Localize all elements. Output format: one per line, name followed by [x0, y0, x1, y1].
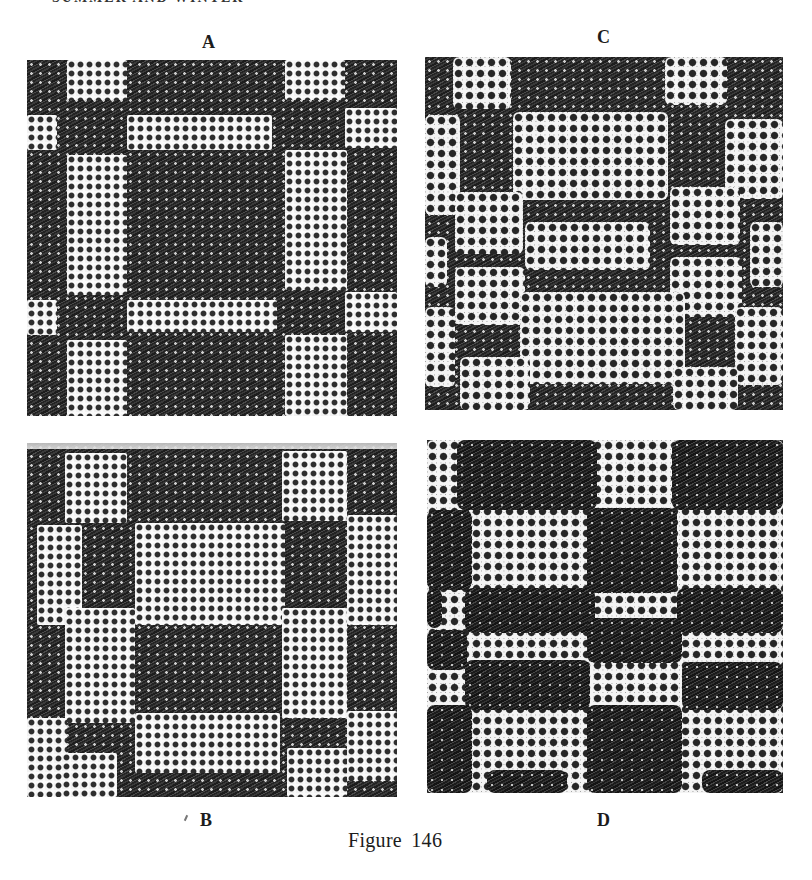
- pattern-block-light: [287, 748, 347, 797]
- pattern-block-light: [27, 300, 57, 335]
- pattern-block-lighter: [460, 357, 530, 410]
- pattern-block-lighter: [670, 187, 740, 245]
- textile-swatch-c: [425, 57, 783, 410]
- pattern-block-dark: [587, 705, 682, 793]
- pattern-block-lighter: [425, 307, 455, 387]
- pattern-block-light: [347, 711, 397, 781]
- pattern-block-dark: [487, 770, 567, 793]
- pattern-block-lighter: [455, 192, 523, 254]
- pattern-block-light: [67, 155, 127, 295]
- pattern-block-dark: [427, 705, 472, 793]
- pattern-block-dark: [702, 770, 783, 793]
- pattern-block-light: [27, 718, 67, 797]
- pattern-block-dark: [427, 588, 442, 628]
- textile-swatch-a: [27, 60, 397, 416]
- pattern-block-lighter: [425, 237, 447, 287]
- pattern-block-light: [67, 60, 127, 100]
- pattern-block-dark: [457, 440, 597, 510]
- pattern-block-light: [27, 115, 57, 150]
- pattern-block-dark: [587, 508, 677, 593]
- pattern-block-light: [345, 292, 397, 332]
- pattern-block-dark: [682, 662, 783, 710]
- pattern-block-light: [285, 60, 345, 100]
- pattern-block-light: [345, 108, 397, 148]
- pattern-block-light: [65, 453, 127, 523]
- panel-label-d: D: [597, 811, 610, 829]
- pattern-block-dark: [677, 588, 783, 633]
- pattern-block-lighter: [453, 57, 511, 109]
- pattern-block-lighter: [525, 222, 650, 270]
- pattern-block-lighter: [750, 222, 783, 287]
- pattern-block-lighter: [520, 292, 685, 384]
- pattern-block-light: [347, 515, 397, 625]
- panel-label-b: B: [200, 811, 212, 829]
- pattern-block-light: [285, 150, 347, 290]
- textile-swatch-d: [427, 440, 783, 793]
- pattern-block-light: [65, 608, 135, 723]
- pattern-block-dark: [465, 588, 595, 633]
- pattern-block-light: [127, 115, 272, 150]
- pattern-block-light: [135, 713, 280, 773]
- scan-edge-band: [27, 443, 397, 449]
- pattern-block-light: [135, 523, 285, 625]
- panel-label-a: A: [202, 33, 215, 51]
- pattern-block-light: [282, 451, 347, 521]
- pattern-block-dark: [427, 630, 467, 670]
- pattern-block-light: [127, 300, 277, 332]
- pattern-block-dark: [427, 510, 472, 590]
- running-head: SUMMER AND WINTER: [52, 0, 244, 5]
- pattern-block-lighter: [513, 112, 668, 200]
- pattern-block-light: [62, 753, 117, 797]
- stray-print-mark: [184, 815, 188, 821]
- pattern-block-lighter: [665, 57, 727, 105]
- pattern-block-light: [67, 340, 127, 416]
- panel-label-c: C: [597, 28, 610, 46]
- pattern-block-lighter: [455, 267, 525, 325]
- pattern-block-light: [282, 608, 347, 718]
- pattern-block-light: [285, 335, 347, 416]
- textile-swatch-b: [27, 443, 397, 797]
- pattern-block-dark: [587, 618, 682, 663]
- figure-caption: Figure 146: [348, 829, 442, 851]
- pattern-block-lighter: [735, 307, 783, 385]
- pattern-block-dark: [672, 440, 783, 510]
- pattern-block-lighter: [673, 367, 738, 410]
- pattern-block-dark: [465, 660, 590, 710]
